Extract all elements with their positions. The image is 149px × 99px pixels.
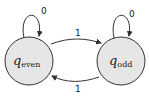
label-loop-odd: 0: [129, 9, 135, 19]
self-loop-even: [23, 15, 40, 38]
transition-odd-to-even: [52, 76, 99, 81]
label-loop-even: 0: [41, 6, 47, 16]
state-diagram: 0 0 1 1 qeven qodd: [0, 0, 149, 99]
label-even-to-odd: 1: [75, 28, 81, 38]
transition-even-to-odd: [51, 39, 101, 44]
label-odd-to-even: 1: [75, 84, 81, 94]
self-loop-odd: [113, 15, 130, 38]
